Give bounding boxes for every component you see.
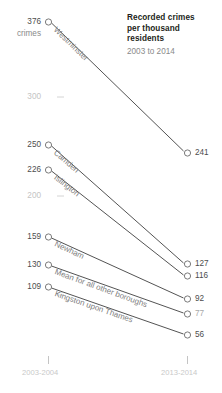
value-label-islington-end: 116 [195, 271, 208, 280]
y-tick-label-200: 200 [7, 191, 41, 200]
value-label-islington-start: 226 [7, 165, 41, 174]
marker-mean-other-boroughs-end [184, 311, 190, 317]
slope-lines [52, 23, 184, 334]
chart-title-line-1: Recorded crimes [127, 13, 219, 24]
value-label-kingston-upon-thames-start: 109 [7, 282, 41, 291]
slope-chart: Recorded crimes per thousand residents 2… [0, 0, 222, 393]
value-label-mean-other-boroughs-end: 77 [195, 309, 204, 318]
x-axis-tick-marks [49, 356, 188, 364]
value-label-newham-start: 159 [7, 232, 41, 241]
value-label-westminster-start: 376 [7, 17, 41, 26]
marker-islington-start [45, 167, 51, 173]
marker-newham-start [45, 234, 51, 240]
x-axis-label-right: 2013-2014 [161, 368, 197, 377]
value-label-mean-other-boroughs-start: 130 [7, 260, 41, 269]
marker-islington-end [184, 273, 190, 279]
y-axis-unit-label: crimes [7, 29, 41, 38]
marker-kingston-upon-thames-start [45, 284, 51, 290]
value-label-kingston-upon-thames-end: 56 [195, 330, 204, 339]
chart-title-block: Recorded crimes per thousand residents 2… [127, 13, 219, 57]
chart-title-line-2: per thousand residents [127, 24, 219, 45]
marker-mean-other-boroughs-start [45, 262, 51, 268]
value-label-camden-start: 250 [7, 140, 41, 149]
value-label-newham-end: 92 [195, 294, 204, 303]
marker-newham-end [184, 296, 190, 302]
marker-westminster-start [45, 19, 51, 25]
marker-westminster-end [184, 150, 190, 156]
y-tick-label-300: 300 [7, 92, 41, 101]
chart-subtitle: 2003 to 2014 [127, 46, 219, 58]
marker-kingston-upon-thames-end [184, 332, 190, 338]
marker-camden-start [45, 142, 51, 148]
x-axis-label-left: 2003-2004 [22, 368, 58, 377]
value-label-camden-end: 127 [195, 259, 209, 268]
marker-camden-end [184, 261, 190, 267]
y-axis-tick-marks [57, 97, 64, 295]
value-label-westminster-end: 241 [195, 148, 209, 157]
